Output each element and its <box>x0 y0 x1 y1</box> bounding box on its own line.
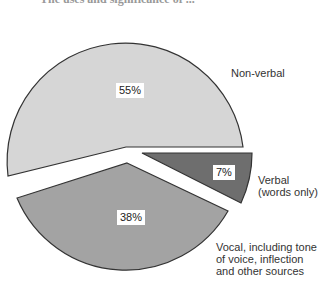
vocal-percent: 38% <box>117 210 145 225</box>
vocal-label: Vocal, including tone of voice, inflecti… <box>216 241 317 277</box>
nonverbal-label: Non-verbal <box>231 67 285 79</box>
nonverbal-percent: 55% <box>116 83 144 98</box>
verbal-percent: 7% <box>213 165 235 180</box>
verbal-label: Verbal (words only) <box>258 174 318 198</box>
pie-chart: The uses and significance of ... 55% 7% … <box>0 0 323 293</box>
